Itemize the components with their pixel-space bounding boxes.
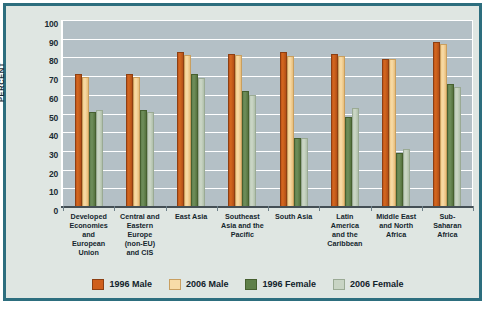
y-tick-label: 70 xyxy=(24,76,58,85)
bar[interactable] xyxy=(147,112,154,207)
legend-item[interactable]: 1996 Male xyxy=(92,279,152,290)
bar[interactable] xyxy=(177,52,184,207)
x-category-label-line: America xyxy=(320,221,369,230)
bar[interactable] xyxy=(447,84,454,207)
bar[interactable] xyxy=(454,87,461,207)
bar[interactable] xyxy=(352,108,359,207)
x-category-label-line: Union xyxy=(64,248,113,257)
legend-item[interactable]: 1996 Female xyxy=(245,279,316,290)
source-note xyxy=(4,305,481,316)
x-category-label-line: Europe xyxy=(115,230,164,239)
x-category-label: DevelopedEconomiesandEuropeanUnion xyxy=(63,212,114,257)
bar[interactable] xyxy=(75,74,82,207)
bar[interactable] xyxy=(433,42,440,207)
x-tick xyxy=(371,206,372,211)
y-tick-label: 90 xyxy=(24,39,58,48)
bar-group xyxy=(371,20,422,207)
bar-group xyxy=(63,20,114,207)
y-tick-label: 100 xyxy=(24,20,58,29)
bar[interactable] xyxy=(242,91,249,207)
bar[interactable] xyxy=(198,78,205,207)
legend-swatch xyxy=(92,279,104,290)
legend-swatch xyxy=(169,279,181,290)
x-tick xyxy=(114,206,115,211)
legend-item[interactable]: 2006 Male xyxy=(169,279,229,290)
legend-label: 1996 Male xyxy=(109,279,152,289)
x-category-label-line: and North xyxy=(372,221,421,230)
x-category-label-line: South Asia xyxy=(269,212,318,221)
x-category-label-line: and xyxy=(64,230,113,239)
bar[interactable] xyxy=(249,95,256,207)
legend-label: 2006 Male xyxy=(186,279,229,289)
x-category-label: Middle Eastand NorthAfrica xyxy=(371,212,422,257)
y-tick-label: 30 xyxy=(24,151,58,160)
bar-group xyxy=(166,20,217,207)
bar[interactable] xyxy=(345,117,352,207)
legend-item[interactable]: 2006 Female xyxy=(333,279,404,290)
chart-frame: PERCENT 0102030405060708090100 Developed… xyxy=(3,3,482,301)
x-tick xyxy=(217,206,218,211)
y-tick-label: 60 xyxy=(24,95,58,104)
bar[interactable] xyxy=(294,138,301,207)
bar[interactable] xyxy=(96,110,103,207)
bar[interactable] xyxy=(140,110,147,207)
bar-group xyxy=(217,20,268,207)
bar-group xyxy=(422,20,473,207)
bar[interactable] xyxy=(228,54,235,207)
x-category-label-line: Africa xyxy=(423,230,472,239)
x-tick xyxy=(166,206,167,211)
bar-group xyxy=(114,20,165,207)
x-axis-category-labels: DevelopedEconomiesandEuropeanUnionCentra… xyxy=(63,212,473,257)
x-category-label-line: Middle East xyxy=(372,212,421,221)
bar-groups xyxy=(63,20,473,207)
bar[interactable] xyxy=(382,59,389,207)
legend-label: 2006 Female xyxy=(350,279,404,289)
bar[interactable] xyxy=(287,56,294,207)
bar-group xyxy=(268,20,319,207)
bar[interactable] xyxy=(133,77,140,207)
x-category-label-line: Southeast xyxy=(218,212,267,221)
bar[interactable] xyxy=(126,74,133,207)
x-tick xyxy=(63,206,64,211)
bar[interactable] xyxy=(184,55,191,207)
x-category-label-line: and the xyxy=(320,230,369,239)
x-category-label: LatinAmericaand theCaribbean xyxy=(319,212,370,257)
bar[interactable] xyxy=(301,138,308,207)
x-category-label-line: Caribbean xyxy=(320,239,369,248)
bar[interactable] xyxy=(82,77,89,207)
bar[interactable] xyxy=(396,153,403,207)
x-tick xyxy=(319,206,320,211)
x-category-label-line: Eastern xyxy=(115,221,164,230)
y-tick-label: 20 xyxy=(24,170,58,179)
bar[interactable] xyxy=(403,149,410,207)
x-category-label: Sub-SaharanAfrica xyxy=(422,212,473,257)
y-tick-label: 80 xyxy=(24,57,58,66)
bar[interactable] xyxy=(235,55,242,207)
x-category-label: East Asia xyxy=(166,212,217,257)
x-category-label-line: Africa xyxy=(372,230,421,239)
y-tick-label: 40 xyxy=(24,132,58,141)
bar[interactable] xyxy=(338,56,345,207)
x-category-label-line: Asia and the xyxy=(218,221,267,230)
x-tick xyxy=(268,206,269,211)
x-category-label-line: and CIS xyxy=(115,248,164,257)
bar[interactable] xyxy=(331,54,338,207)
x-category-label: SoutheastAsia and thePacific xyxy=(217,212,268,257)
bar[interactable] xyxy=(440,44,447,207)
bar[interactable] xyxy=(389,59,396,207)
x-axis-ticks xyxy=(61,206,473,211)
legend-swatch xyxy=(333,279,345,290)
y-axis-title: PERCENT xyxy=(0,62,6,102)
bar[interactable] xyxy=(191,74,198,207)
bar[interactable] xyxy=(89,112,96,207)
x-category-label-line: Economies xyxy=(64,221,113,230)
x-category-label-line: Saharan xyxy=(423,221,472,230)
x-category-label-line: East Asia xyxy=(167,212,216,221)
x-category-label-line: Pacific xyxy=(218,230,267,239)
y-tick-label: 10 xyxy=(24,188,58,197)
chart-figure: PERCENT 0102030405060708090100 Developed… xyxy=(0,0,485,316)
x-category-label-line: Latin xyxy=(320,212,369,221)
y-axis-tick-labels: 0102030405060708090100 xyxy=(24,14,58,213)
legend-label: 1996 Female xyxy=(262,279,316,289)
bar[interactable] xyxy=(280,52,287,207)
